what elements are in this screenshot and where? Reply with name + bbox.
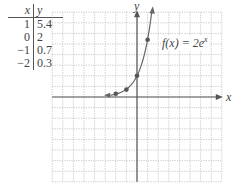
table-cell-x: 1 <box>8 18 34 31</box>
value-table: x y 1 5.4 0 2 −1 0.7 −2 0.3 <box>8 4 63 70</box>
table-row: 1 5.4 <box>8 18 63 31</box>
function-label-exponent: x <box>204 35 208 44</box>
data-point <box>124 87 129 92</box>
table-row: −2 0.3 <box>8 57 63 70</box>
table-header: x y <box>8 4 63 18</box>
curve-top-arrow-icon <box>149 6 154 14</box>
x-axis-label: x <box>226 90 231 105</box>
data-points <box>114 37 150 96</box>
data-point <box>114 92 119 97</box>
function-label: f(x) = 2ex <box>161 35 209 51</box>
y-axis-label: y <box>134 0 139 14</box>
table-header-y: y <box>34 4 63 17</box>
table-cell-y: 0.3 <box>34 57 63 70</box>
table-cell-x: −2 <box>8 57 34 70</box>
function-label-base: f(x) = 2e <box>162 36 204 50</box>
curve-path <box>111 11 152 95</box>
table-header-x: x <box>8 4 34 17</box>
data-point <box>145 37 150 42</box>
data-point <box>135 74 140 79</box>
